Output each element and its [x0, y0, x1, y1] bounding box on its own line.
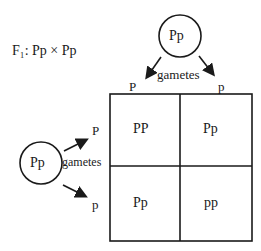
punnett-cell-r2c1: Pp [133, 196, 148, 210]
left-gametes-label: gametes [62, 156, 101, 168]
punnett-diagram-graphics [0, 0, 261, 251]
punnett-cell-r1c2: Pp [203, 122, 218, 136]
top-gamete-2: p [218, 80, 225, 93]
punnett-grid [110, 94, 252, 241]
punnett-cell-r2c2: pp [204, 196, 218, 210]
top-gametes-label: gametes [157, 68, 200, 81]
top-parent-genotype: Pp [169, 29, 184, 43]
cross-label: F₁: Pp × Pp [12, 44, 77, 58]
left-parent-genotype: Pp [30, 156, 45, 170]
left-gamete-1: P [92, 124, 99, 137]
arrow-left-up [64, 140, 86, 151]
arrow-left-down [63, 185, 85, 196]
top-gamete-1: P [129, 80, 136, 93]
left-gamete-2: p [92, 198, 99, 211]
arrow-top-right [199, 56, 213, 74]
punnett-cell-r1c1: PP [133, 122, 149, 136]
